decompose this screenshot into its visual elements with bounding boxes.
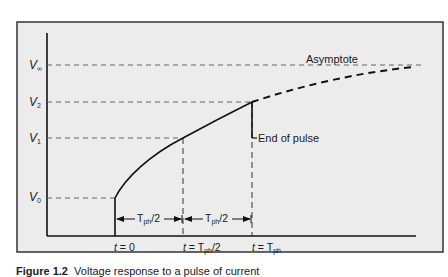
figure-caption: Figure 1.2 Voltage response to a pulse o… xyxy=(16,265,259,277)
caption-text: Voltage response to a pulse of current xyxy=(74,265,259,277)
asymptote-label: Asymptote xyxy=(306,53,358,65)
caption-figure-number: Figure 1.2 xyxy=(16,265,68,277)
end-of-pulse-label: End of pulse xyxy=(258,132,319,144)
x-label-t0: t = 0 xyxy=(114,241,135,253)
figure-panel xyxy=(17,22,443,252)
x-label-t-half: t = Tph/2 xyxy=(183,241,221,255)
